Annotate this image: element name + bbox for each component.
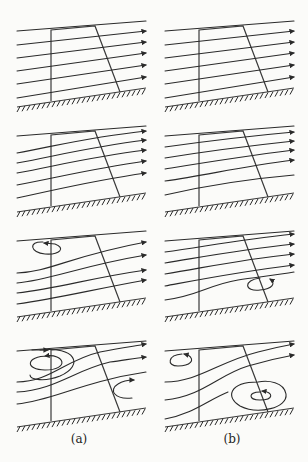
- panel-b1: [165, 21, 294, 112]
- panel-b4: [165, 341, 294, 432]
- panel-a2: [17, 126, 146, 217]
- column-label-b: (b): [223, 432, 240, 446]
- panel-b3: [165, 231, 294, 322]
- panel-a3: [17, 231, 146, 322]
- panel-a4: [17, 341, 146, 432]
- column-label-a: (a): [71, 432, 88, 446]
- panel-a1: [17, 21, 146, 112]
- panel-b2: [165, 126, 294, 217]
- flow-pattern-figure: (a) (b): [0, 0, 308, 462]
